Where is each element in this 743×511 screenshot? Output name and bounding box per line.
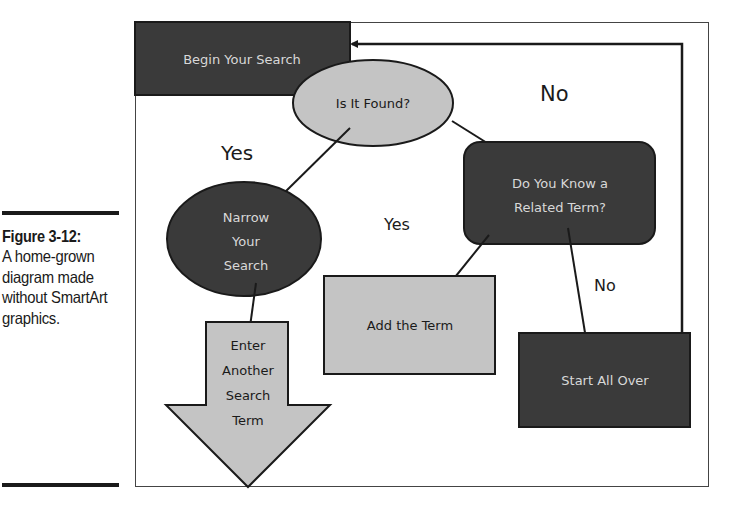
edge-label-related-no: No: [594, 276, 616, 295]
node-label-line4: Term: [231, 413, 264, 428]
edge-found-to-narrow: [281, 128, 350, 196]
node-label-line3: Search: [226, 388, 271, 403]
node-label-line1: Enter: [231, 338, 267, 353]
node-enter-another-search-term: Enter Another Search Term: [166, 322, 330, 487]
node-label-line2: Related Term?: [514, 200, 606, 215]
node-start-all-over: Start All Over: [519, 333, 690, 427]
node-narrow-your-search: Narrow Your Search: [167, 182, 321, 296]
edge-label-related-yes: Yes: [383, 215, 410, 234]
node-label-line1: Narrow: [223, 210, 270, 225]
node-label: Is It Found?: [336, 96, 410, 111]
node-is-it-found: Is It Found?: [293, 60, 453, 146]
edge-label-found-yes: Yes: [220, 141, 253, 165]
node-label-line2: Your: [231, 234, 260, 249]
node-label-line3: Search: [224, 258, 269, 273]
node-related-term: Do You Know a Related Term?: [464, 142, 655, 244]
node-add-the-term: Add the Term: [324, 276, 495, 374]
node-label-line1: Do You Know a: [512, 176, 608, 191]
node-label: Start All Over: [561, 373, 649, 388]
node-label: Begin Your Search: [183, 52, 301, 67]
node-label-line2: Another: [222, 363, 274, 378]
node-label: Add the Term: [367, 318, 453, 333]
edge-related-to-start-over: [568, 228, 587, 345]
flowchart: Begin Your Search Is It Found? Do You Kn…: [0, 0, 743, 511]
edge-label-found-no: No: [540, 82, 569, 106]
